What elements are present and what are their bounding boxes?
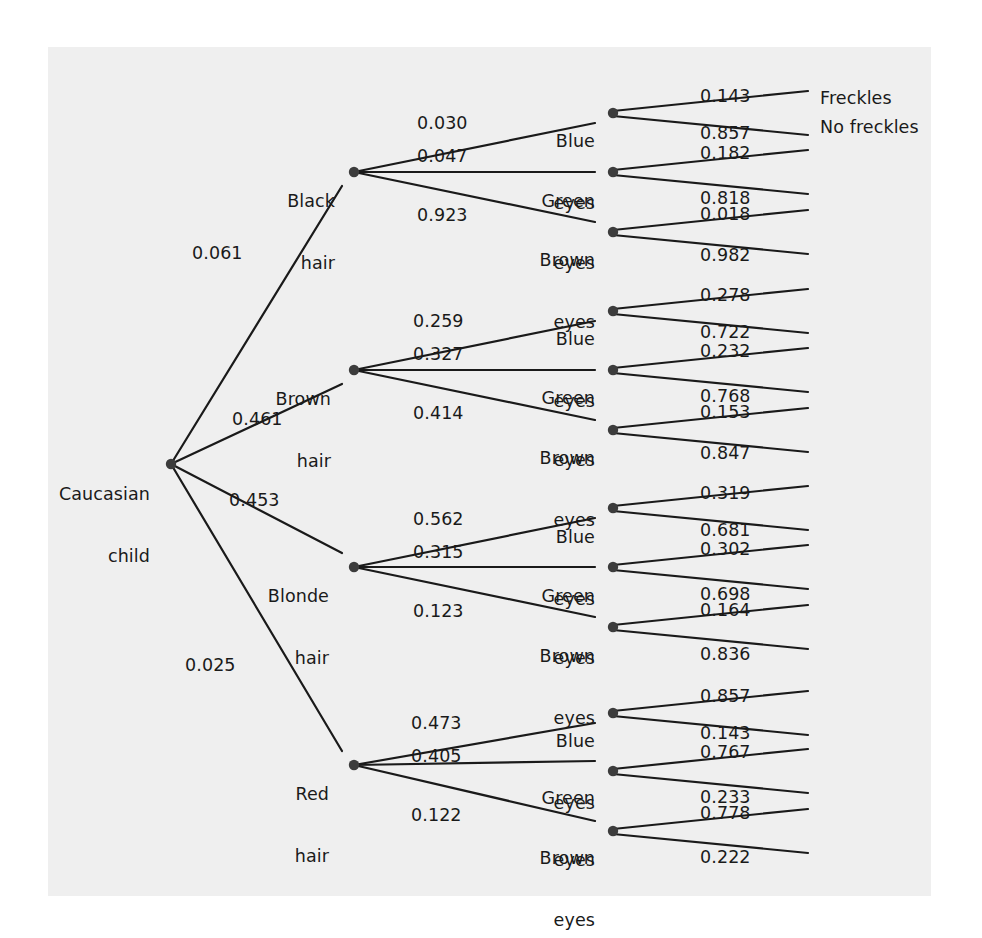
eye-prob-0-0: 0.030 — [417, 113, 468, 133]
probability-tree-figure: Caucasian child Black hair Brown hair Bl… — [0, 0, 982, 938]
freckles-prob-2-1: 0.302 — [700, 539, 751, 559]
eye-label-line1: Green — [495, 788, 595, 809]
freckles-prob-3-2: 0.778 — [700, 803, 751, 823]
root-label-line2: child — [0, 546, 150, 567]
hair-label-line1: Black — [215, 191, 335, 212]
eye-prob-3-0: 0.473 — [411, 713, 462, 733]
hair-node-label-2: Blonde hair — [209, 545, 329, 710]
hair-prob-0: 0.061 — [192, 243, 243, 263]
eye-label-line1: Green — [495, 388, 595, 409]
eye-prob-0-2: 0.923 — [417, 205, 468, 225]
eye-prob-1-0: 0.259 — [413, 311, 464, 331]
eye-label-line1: Brown — [495, 448, 595, 469]
eye-label-line1: Brown — [495, 848, 595, 869]
freckles-prob-0-0: 0.143 — [700, 86, 751, 106]
no-freckles-prob-1-0: 0.722 — [700, 322, 751, 342]
eye-label-line2: eyes — [495, 910, 595, 931]
no-freckles-prob-0-2: 0.982 — [700, 245, 751, 265]
freckles-prob-1-2: 0.153 — [700, 402, 751, 422]
terminal-label-freckles: Freckles — [820, 88, 892, 108]
hair-label-line2: hair — [209, 846, 329, 867]
root-label: Caucasian child — [0, 443, 150, 608]
eye-node-label-3-2: Brown eyes — [495, 807, 595, 938]
hair-label-line1: Blonde — [209, 586, 329, 607]
no-freckles-prob-1-2: 0.847 — [700, 443, 751, 463]
hair-node-label-3: Red hair — [209, 743, 329, 908]
hair-node-label-1: Brown hair — [211, 348, 331, 513]
no-freckles-prob-2-0: 0.681 — [700, 520, 751, 540]
eye-prob-1-1: 0.327 — [413, 344, 464, 364]
freckles-prob-2-2: 0.164 — [700, 600, 751, 620]
root-label-line1: Caucasian — [0, 484, 150, 505]
hair-prob-2: 0.453 — [229, 490, 280, 510]
eye-label-line1: Green — [495, 586, 595, 607]
no-freckles-prob-2-2: 0.836 — [700, 644, 751, 664]
freckles-prob-0-2: 0.018 — [700, 204, 751, 224]
no-freckles-prob-3-2: 0.222 — [700, 847, 751, 867]
eye-prob-3-2: 0.122 — [411, 805, 462, 825]
eye-prob-0-1: 0.047 — [417, 146, 468, 166]
terminal-label-no-freckles: No freckles — [820, 117, 919, 137]
freckles-prob-1-1: 0.232 — [700, 341, 751, 361]
hair-prob-3: 0.025 — [185, 655, 236, 675]
eye-prob-2-0: 0.562 — [413, 509, 464, 529]
eye-prob-3-1: 0.405 — [411, 746, 462, 766]
freckles-prob-0-1: 0.182 — [700, 143, 751, 163]
eye-label-line1: Brown — [495, 250, 595, 271]
hair-label-line1: Red — [209, 784, 329, 805]
eye-prob-2-2: 0.123 — [413, 601, 464, 621]
freckles-prob-3-1: 0.767 — [700, 742, 751, 762]
hair-label-line2: hair — [211, 451, 331, 472]
hair-node-label-0: Black hair — [215, 150, 335, 315]
eye-prob-1-2: 0.414 — [413, 403, 464, 423]
hair-label-line1: Brown — [211, 389, 331, 410]
eye-label-line1: Blue — [495, 131, 595, 152]
freckles-prob-1-0: 0.278 — [700, 285, 751, 305]
freckles-prob-3-0: 0.857 — [700, 686, 751, 706]
no-freckles-prob-3-0: 0.143 — [700, 723, 751, 743]
eye-label-line1: Brown — [495, 646, 595, 667]
freckles-prob-2-0: 0.319 — [700, 483, 751, 503]
hair-prob-1: 0.461 — [232, 409, 283, 429]
no-freckles-prob-0-0: 0.857 — [700, 123, 751, 143]
eye-prob-2-1: 0.315 — [413, 542, 464, 562]
